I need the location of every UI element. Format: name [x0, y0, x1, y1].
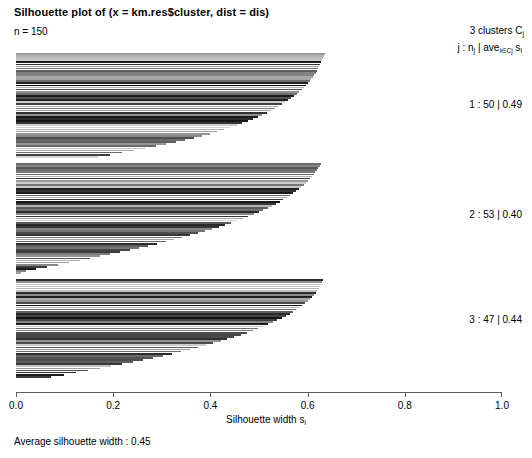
x-axis-tick: [16, 392, 17, 397]
silhouette-bar: [16, 133, 210, 135]
legend-line-clusters: 3 clusters Cj: [457, 24, 524, 41]
silhouette-bar: [16, 137, 194, 139]
silhouette-bar: [16, 251, 120, 253]
silhouette-bar: [16, 222, 231, 224]
silhouette-bar: [16, 258, 90, 260]
silhouette-bar: [16, 232, 198, 234]
x-axis-line: [16, 392, 502, 393]
silhouette-bar: [16, 319, 277, 321]
silhouette-bar: [16, 127, 230, 129]
silhouette-bar: [16, 288, 319, 290]
silhouette-bar: [16, 218, 243, 220]
silhouette-bar: [16, 226, 219, 228]
silhouette-bar: [16, 110, 271, 112]
silhouette-bar: [16, 249, 130, 251]
silhouette-bar: [16, 228, 212, 230]
x-axis-tick: [113, 392, 114, 397]
silhouette-bar: [16, 342, 213, 344]
silhouette-bar: [16, 131, 217, 133]
silhouette-plot-area: [0, 0, 532, 458]
silhouette-bar: [16, 239, 174, 241]
silhouette-bar: [16, 180, 308, 182]
silhouette-bar: [16, 195, 290, 197]
x-axis-tick-label: 0.0: [0, 400, 36, 411]
silhouette-bar: [16, 186, 301, 188]
legend: 3 clusters Cj j : nj | avei∈Cj si: [457, 24, 524, 58]
silhouette-bar: [16, 353, 172, 355]
silhouette-bar: [16, 317, 282, 319]
silhouette-bar: [16, 279, 323, 281]
silhouette-bar: [16, 78, 311, 80]
silhouette-bar: [16, 171, 315, 173]
silhouette-bar: [16, 169, 317, 171]
silhouette-bar: [16, 184, 304, 186]
silhouette-bar: [16, 220, 237, 222]
silhouette-bar: [16, 372, 76, 374]
silhouette-bar: [16, 66, 319, 68]
silhouette-bar: [16, 363, 122, 365]
silhouette-bar: [16, 311, 293, 313]
x-axis-tick: [501, 392, 502, 397]
sample-size-label: n = 150: [14, 26, 48, 37]
silhouette-bar: [16, 368, 100, 370]
silhouette-bar: [16, 154, 110, 156]
silhouette-bar: [16, 245, 148, 247]
silhouette-bar: [16, 281, 322, 283]
silhouette-bar: [16, 270, 26, 272]
silhouette-bar: [16, 141, 176, 143]
silhouette-bar: [16, 70, 317, 72]
silhouette-bar: [16, 82, 308, 84]
silhouette-bar: [16, 328, 258, 330]
silhouette-bar: [16, 203, 276, 205]
legend-formula-b: | ave: [475, 42, 499, 53]
silhouette-bar: [16, 91, 299, 93]
legend-clusters-subscript: j: [522, 30, 524, 37]
silhouette-bar: [16, 89, 302, 91]
silhouette-bar: [16, 178, 310, 180]
silhouette-bar: [16, 97, 291, 99]
silhouette-bar: [16, 326, 263, 328]
silhouette-bar: [16, 135, 202, 137]
silhouette-bar: [16, 163, 321, 165]
silhouette-bar: [16, 307, 299, 309]
x-axis-tick-label: 0.2: [93, 400, 133, 411]
x-axis-label-subscript: i: [304, 419, 306, 426]
silhouette-bar: [16, 336, 234, 338]
silhouette-bar: [16, 80, 310, 82]
silhouette-bar: [16, 85, 306, 87]
silhouette-bar: [16, 106, 278, 108]
silhouette-bar: [16, 76, 313, 78]
silhouette-bar: [16, 315, 286, 317]
silhouette-bar: [16, 93, 297, 95]
silhouette-bar: [16, 99, 288, 101]
silhouette-bar: [16, 351, 181, 353]
silhouette-bar: [16, 55, 324, 57]
silhouette-bar: [16, 72, 316, 74]
silhouette-bar: [16, 59, 322, 61]
x-axis-label: Silhouette width si: [0, 414, 532, 426]
silhouette-bar: [16, 103, 282, 105]
silhouette-bar: [16, 376, 51, 378]
silhouette-bar: [16, 305, 302, 307]
silhouette-bar: [16, 237, 182, 239]
x-axis-tick-label: 0.8: [385, 400, 425, 411]
silhouette-bar: [16, 156, 98, 158]
silhouette-bar: [16, 286, 320, 288]
silhouette-bar: [16, 300, 308, 302]
silhouette-bar: [16, 370, 88, 372]
silhouette-bar: [16, 129, 224, 131]
silhouette-bar: [16, 230, 205, 232]
silhouette-bar: [16, 211, 259, 213]
silhouette-bar: [16, 118, 253, 120]
silhouette-bar: [16, 120, 248, 122]
silhouette-bar: [16, 68, 318, 70]
silhouette-bar: [16, 165, 320, 167]
silhouette-bar: [16, 116, 258, 118]
x-axis-tick-label: 1.0: [482, 400, 522, 411]
silhouette-bar: [16, 216, 248, 218]
silhouette-bar: [16, 53, 325, 55]
silhouette-bar: [16, 145, 156, 147]
x-axis-tick: [210, 392, 211, 397]
silhouette-bar: [16, 139, 185, 141]
silhouette-bar: [16, 284, 321, 286]
